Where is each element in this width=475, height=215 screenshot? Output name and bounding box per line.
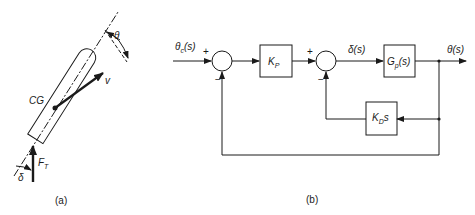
output-signal-label: θ(s) xyxy=(447,44,464,55)
summing-junction-2 xyxy=(316,51,336,71)
caption-a: (a) xyxy=(55,195,67,206)
delta-label: δ xyxy=(18,172,24,183)
diagram-canvas: θ v CG FT δ (a) θc(s) + − KP xyxy=(0,0,475,215)
gp-label: Gp(s) xyxy=(387,56,410,70)
outer-feedback-line xyxy=(222,72,439,155)
sum1-plus-sign: + xyxy=(203,46,209,57)
rocket-figure: θ v CG FT δ xyxy=(14,12,128,183)
cg-point xyxy=(53,106,58,111)
kp-label: KP xyxy=(268,56,280,69)
kd-label: KDs xyxy=(372,112,389,125)
input-signal-label: θc(s) xyxy=(175,41,196,54)
intermediate-signal-label: δ(s) xyxy=(348,44,365,55)
caption-b: (b) xyxy=(306,194,318,205)
sum2-minus-sign: − xyxy=(318,74,324,85)
velocity-vector xyxy=(55,73,103,108)
thrust-label: FT xyxy=(38,157,49,170)
rocket-axis-line xyxy=(14,12,118,176)
sum1-minus-sign: − xyxy=(215,74,221,85)
velocity-label: v xyxy=(105,75,111,86)
derivative-feedback-line xyxy=(326,72,366,119)
cg-label: CG xyxy=(29,95,44,106)
sum2-plus-sign: + xyxy=(307,46,313,57)
theta-label: θ xyxy=(114,30,120,41)
summing-junction-1 xyxy=(212,51,232,71)
kp-block xyxy=(260,45,292,77)
block-diagram: θc(s) + − KP + − δ(s) Gp(s) θ(s) xyxy=(173,41,466,155)
